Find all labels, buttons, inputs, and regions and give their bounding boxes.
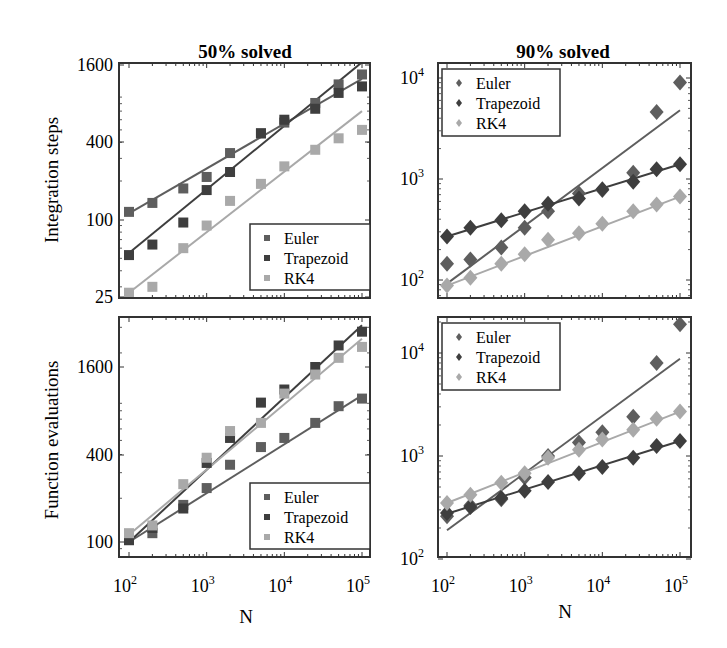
x-tick-label: 103 [509, 573, 533, 596]
data-point-euler [310, 418, 320, 428]
data-point-trapezoid [256, 398, 266, 408]
legend-label-rk4: RK4 [284, 270, 314, 287]
legend-marker-rk4 [264, 534, 270, 540]
data-point-euler [357, 394, 367, 404]
x-tick-label: 103 [191, 573, 215, 596]
x-tick-label: 104 [586, 573, 610, 596]
chart-panel-1: 251004001600EulerTrapezoidRK4 [77, 55, 370, 307]
chart-panel-4: 102103104102103104105EulerTrapezoidRK4 [400, 316, 691, 596]
ylabel-integration-steps: Integration steps [41, 117, 62, 243]
data-point-trapezoid [147, 240, 157, 250]
data-point-rk4 [334, 353, 344, 363]
legend: EulerTrapezoidRK4 [250, 224, 370, 290]
data-point-euler [202, 483, 212, 493]
x-tick-label: 102 [113, 573, 137, 596]
data-point-rk4 [225, 196, 235, 206]
y-tick-label: 103 [400, 443, 424, 466]
data-point-rk4 [147, 282, 157, 292]
chart-panel-3: 1004001600102103104105EulerTrapezoidRK4 [77, 317, 370, 596]
data-point-trapezoid [334, 88, 344, 98]
legend-marker-rk4 [264, 275, 270, 281]
legend-marker-euler [264, 235, 270, 241]
legend: EulerTrapezoidRK4 [250, 483, 370, 549]
y-tick-label: 1600 [77, 357, 113, 377]
data-point-rk4 [147, 520, 157, 530]
x-tick-label: 105 [664, 573, 688, 596]
legend-label-rk4: RK4 [476, 115, 506, 132]
data-point-rk4 [357, 125, 367, 135]
data-point-trapezoid [202, 185, 212, 195]
data-point-euler [279, 433, 289, 443]
data-point-rk4 [202, 453, 212, 463]
legend-label-trapezoid: Trapezoid [476, 95, 540, 113]
data-point-euler [225, 148, 235, 158]
y-tick-label: 1600 [77, 55, 113, 75]
data-point-rk4 [225, 426, 235, 436]
y-tick-label: 100 [86, 532, 113, 552]
data-point-rk4 [178, 479, 188, 489]
data-point-trapezoid [178, 218, 188, 228]
xlabel-left: N [239, 606, 253, 627]
data-point-rk4 [256, 179, 266, 189]
legend-label-euler: Euler [284, 230, 319, 247]
data-point-rk4 [310, 145, 320, 155]
column-title-50: 50% solved [198, 41, 292, 62]
legend-label-euler: Euler [476, 329, 511, 346]
legend-marker-trapezoid [264, 514, 270, 520]
data-point-rk4 [124, 528, 134, 538]
data-point-euler [225, 460, 235, 470]
data-point-trapezoid [256, 128, 266, 138]
legend-label-rk4: RK4 [284, 529, 314, 546]
data-point-rk4 [357, 342, 367, 352]
x-tick-label: 104 [268, 573, 292, 596]
data-point-trapezoid [357, 81, 367, 91]
y-tick-label: 103 [400, 166, 424, 189]
y-tick-label: 25 [95, 287, 113, 307]
data-point-trapezoid [225, 167, 235, 177]
data-point-euler [334, 401, 344, 411]
legend-marker-trapezoid [264, 255, 270, 261]
y-tick-label: 400 [86, 132, 113, 152]
data-point-rk4 [178, 243, 188, 253]
column-title-90: 90% solved [516, 41, 610, 62]
chart-panel-2: 102103104EulerTrapezoidRK4 [400, 63, 691, 298]
legend-label-euler: Euler [476, 75, 511, 92]
y-tick-label: 400 [86, 445, 113, 465]
y-tick-label: 100 [86, 210, 113, 230]
data-point-euler [357, 69, 367, 79]
data-point-euler [178, 183, 188, 193]
y-tick-label: 102 [400, 546, 424, 569]
xlabel-right: N [558, 601, 572, 622]
data-point-rk4 [124, 288, 134, 298]
data-point-trapezoid [310, 104, 320, 114]
legend-label-euler: Euler [284, 489, 319, 506]
data-point-euler [147, 198, 157, 208]
data-point-rk4 [334, 133, 344, 143]
data-point-euler [124, 207, 134, 217]
data-point-rk4 [202, 221, 212, 231]
data-point-trapezoid [124, 250, 134, 260]
legend: EulerTrapezoidRK4 [442, 69, 560, 136]
y-tick-label: 102 [400, 267, 424, 290]
legend-marker-euler [264, 494, 270, 500]
legend-label-trapezoid: Trapezoid [284, 250, 348, 268]
data-point-rk4 [279, 389, 289, 399]
data-point-rk4 [310, 370, 320, 380]
data-point-euler [202, 172, 212, 182]
data-point-rk4 [256, 418, 266, 428]
legend: EulerTrapezoidRK4 [442, 323, 560, 390]
data-point-trapezoid [357, 327, 367, 337]
data-point-trapezoid [334, 340, 344, 350]
data-point-trapezoid [279, 115, 289, 125]
legend-label-trapezoid: Trapezoid [476, 349, 540, 367]
data-point-euler [256, 442, 266, 452]
x-tick-label: 102 [431, 573, 455, 596]
y-tick-label: 104 [400, 65, 424, 88]
x-tick-label: 105 [346, 573, 370, 596]
figure: 50% solved 90% solved Integration steps … [0, 0, 727, 648]
data-point-rk4 [279, 161, 289, 171]
ylabel-function-evaluations: Function evaluations [41, 361, 62, 520]
legend-label-rk4: RK4 [476, 369, 506, 386]
legend-label-trapezoid: Trapezoid [284, 509, 348, 527]
y-tick-label: 104 [400, 340, 424, 363]
